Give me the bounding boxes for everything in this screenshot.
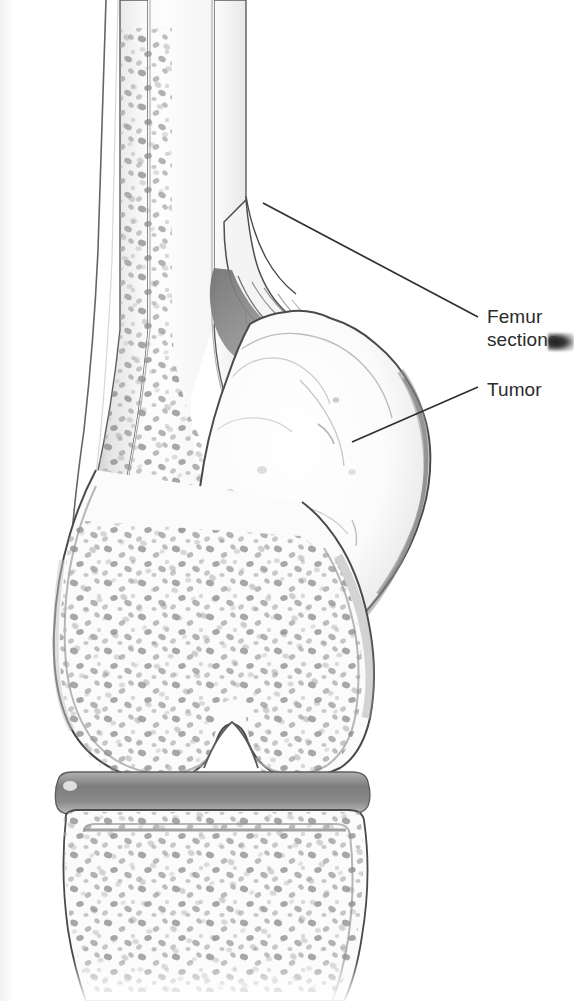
label-tumor-line1: Tumor <box>487 378 542 401</box>
label-femur-sectioned-line1: Femur <box>487 305 559 328</box>
label-tumor: Tumor <box>487 378 542 401</box>
leader-line-femur-sectioned <box>263 203 478 317</box>
scan-edge-artifact <box>0 0 14 1001</box>
tibial-plateau <box>40 805 400 1001</box>
page-edge-smudge <box>548 333 574 351</box>
knee-joint-space <box>55 772 370 814</box>
